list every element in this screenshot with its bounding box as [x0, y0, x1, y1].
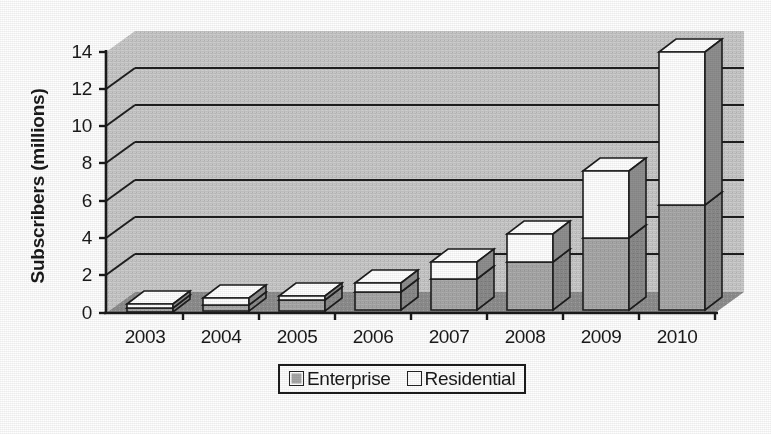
y-tick-label-6: 6: [52, 190, 92, 212]
y-tick-label-14: 14: [52, 41, 92, 63]
x-tick-label-2006: 2006: [336, 326, 410, 348]
plot-floor: [106, 292, 744, 313]
x-tick-label-2007: 2007: [412, 326, 486, 348]
y-tick-label-2: 2: [52, 264, 92, 286]
y-tick-label-8: 8: [52, 152, 92, 174]
column-2008: [507, 221, 570, 310]
y-tick-label-12: 12: [52, 78, 92, 100]
chart-legend: Enterprise Residential: [278, 364, 526, 394]
column-2010: [659, 39, 722, 310]
legend-swatch-enterprise-icon: [289, 371, 304, 386]
x-tick-label-2005: 2005: [260, 326, 334, 348]
chart-figure: Subscribers (millions): [0, 0, 771, 434]
x-tick-label-2008: 2008: [488, 326, 562, 348]
legend-item-residential: Residential: [407, 369, 516, 388]
x-tick-label-2003: 2003: [108, 326, 182, 348]
column-2006: [355, 270, 418, 310]
legend-swatch-residential-icon: [407, 371, 422, 386]
column-2007: [431, 249, 494, 310]
y-tick-label-0: 0: [52, 302, 92, 324]
legend-item-enterprise: Enterprise: [289, 369, 391, 388]
plot-back-wall: [135, 31, 744, 292]
legend-label-enterprise: Enterprise: [307, 369, 391, 388]
x-tick-label-2010: 2010: [640, 326, 714, 348]
column-2009: [583, 158, 646, 310]
legend-label-residential: Residential: [425, 369, 516, 388]
x-tick-label-2009: 2009: [564, 326, 638, 348]
x-tick-label-2004: 2004: [184, 326, 258, 348]
y-tick-label-10: 10: [52, 115, 92, 137]
y-tick-label-4: 4: [52, 227, 92, 249]
